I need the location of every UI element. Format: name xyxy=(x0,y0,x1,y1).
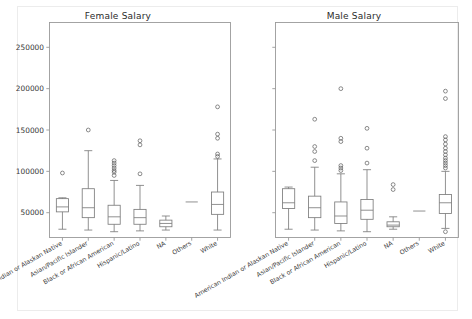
panel-female-salary: Female Salary 50000100000150000200000250… xyxy=(0,0,236,319)
box-group xyxy=(387,183,399,230)
outlier-point xyxy=(86,128,90,132)
box-body xyxy=(211,192,223,214)
outlier-point xyxy=(216,152,220,156)
box-group xyxy=(108,159,120,232)
x-tick-label: White xyxy=(199,239,218,254)
box-group xyxy=(160,216,172,230)
box-body xyxy=(361,199,373,219)
outlier-point xyxy=(138,139,142,143)
box-group xyxy=(282,187,294,229)
outlier-point xyxy=(391,188,395,192)
box-body xyxy=(282,189,294,209)
outlier-point xyxy=(365,161,369,165)
outlier-point xyxy=(313,159,317,163)
outlier-point xyxy=(365,146,369,150)
figure-canvas: Female Salary 50000100000150000200000250… xyxy=(0,0,472,319)
outlier-point xyxy=(138,143,142,147)
outlier-point xyxy=(138,172,142,176)
boxplot-svg-female: 50000100000150000200000250000American In… xyxy=(0,0,236,319)
y-tick-label: 150000 xyxy=(16,126,45,135)
outlier-point xyxy=(313,117,317,121)
box-group xyxy=(361,126,373,231)
box-body xyxy=(387,222,399,227)
x-tick-label: NA xyxy=(382,239,394,250)
y-tick-label: 200000 xyxy=(16,84,45,93)
panel-male-salary: Male Salary American Indian or Alaskan N… xyxy=(236,0,472,319)
box-group xyxy=(439,89,451,233)
box-group xyxy=(335,87,347,231)
y-tick-label: 100000 xyxy=(16,167,45,176)
y-tick-label: 50000 xyxy=(20,208,44,217)
x-tick-label: Others xyxy=(171,239,193,255)
box-group xyxy=(211,105,223,230)
outlier-point xyxy=(339,87,343,91)
outlier-point xyxy=(339,164,343,168)
outlier-point xyxy=(112,159,116,163)
box-body xyxy=(82,189,94,218)
outlier-point xyxy=(216,136,220,140)
box-body xyxy=(108,205,120,224)
outlier-point xyxy=(444,230,448,234)
box-body xyxy=(56,199,68,212)
outlier-point xyxy=(444,89,448,93)
box-group xyxy=(82,128,94,230)
outlier-point xyxy=(61,171,65,175)
outlier-point xyxy=(216,105,220,109)
outlier-point xyxy=(444,142,448,146)
box-group xyxy=(56,171,68,229)
x-tick-label: Others xyxy=(398,239,420,255)
box-body xyxy=(335,202,347,224)
outlier-point xyxy=(444,97,448,101)
outlier-point xyxy=(313,150,317,154)
y-tick-label: 250000 xyxy=(16,43,45,52)
boxplot-svg-male: American Indian or Alaskan NativeAsian/P… xyxy=(236,0,472,319)
outlier-point xyxy=(391,183,395,187)
box-body xyxy=(439,195,451,214)
x-tick-label: White xyxy=(427,239,446,254)
x-tick-label: NA xyxy=(155,239,167,250)
box-body xyxy=(309,196,321,218)
box-group xyxy=(134,139,146,231)
x-tick-label: American Indian or Alaskan Native xyxy=(0,239,63,299)
outlier-point xyxy=(313,145,317,149)
outlier-point xyxy=(216,132,220,136)
box-group xyxy=(309,117,321,230)
box-body xyxy=(134,209,146,224)
outlier-point xyxy=(365,126,369,130)
